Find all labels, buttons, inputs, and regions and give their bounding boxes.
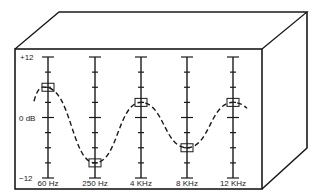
side-face [262, 12, 307, 189]
box-outline [15, 12, 307, 189]
scale-top-label: +12 [20, 53, 34, 62]
front-face [15, 49, 262, 189]
band-label-8khz: 8 KHz [176, 179, 198, 188]
band-label-12khz: 12 KHz [220, 179, 246, 188]
slider-knob [181, 144, 193, 152]
slider-group [42, 57, 239, 178]
scale-mid-label: 0 dB [19, 114, 35, 123]
slider-knob [135, 98, 147, 106]
slider-60hz [42, 57, 54, 178]
slider-knob [42, 83, 54, 91]
band-label-250hz: 250 Hz [82, 179, 107, 188]
slider-knob [227, 98, 239, 106]
scale-bottom-label: −12 [19, 174, 33, 183]
slider-knob [89, 159, 101, 167]
slider-8khz [181, 57, 193, 178]
band-label-60hz: 60 Hz [38, 179, 59, 188]
slider-12khz [227, 57, 239, 178]
band-label-4khz: 4 KHz [130, 179, 152, 188]
equalizer-diagram: +12 0 dB −12 60 Hz 250 Hz 4 KHz 8 KHz 12… [0, 0, 319, 196]
top-face [15, 12, 307, 49]
slider-4khz [135, 57, 147, 178]
